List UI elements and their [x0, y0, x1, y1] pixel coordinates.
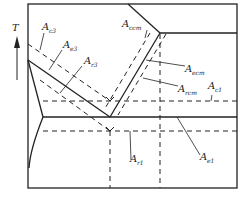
label-ac1: A c1 [207, 80, 222, 93]
axis-label-t: T [12, 22, 20, 33]
svg-text:r3: r3 [91, 61, 98, 68]
intersection-arrow-icon [106, 97, 114, 131]
svg-text:e3: e3 [70, 45, 78, 52]
label-ac3: A c3 [41, 21, 56, 34]
svg-text:e1: e1 [207, 157, 214, 164]
phase-diagram: T A c3 [0, 0, 243, 198]
svg-text:A: A [41, 21, 49, 32]
label-ae3: A e3 [62, 39, 78, 52]
heating-cooling-lines [28, 33, 237, 188]
svg-text:ccm: ccm [129, 24, 142, 31]
svg-text:A: A [83, 55, 91, 66]
svg-text:A: A [207, 80, 215, 91]
label-ar3: A r3 [83, 55, 98, 68]
label-ar1: A r1 [129, 153, 144, 166]
label-arcm: A rcm [177, 83, 197, 96]
label-accm: A ccm [121, 18, 142, 31]
svg-text:rcm: rcm [185, 89, 197, 96]
svg-text:c3: c3 [49, 27, 56, 34]
svg-text:A: A [177, 83, 185, 94]
svg-text:c1: c1 [215, 86, 222, 93]
svg-text:A: A [129, 153, 137, 164]
label-ae1: A e1 [199, 151, 214, 164]
svg-text:A: A [199, 151, 207, 162]
svg-text:r1: r1 [137, 159, 144, 166]
temperature-axis-arrow-icon [14, 36, 20, 80]
svg-text:ecm: ecm [192, 69, 205, 76]
svg-text:A: A [62, 39, 70, 50]
label-aecm: A ecm [184, 63, 205, 76]
svg-text:A: A [184, 63, 192, 74]
svg-text:A: A [121, 18, 129, 29]
